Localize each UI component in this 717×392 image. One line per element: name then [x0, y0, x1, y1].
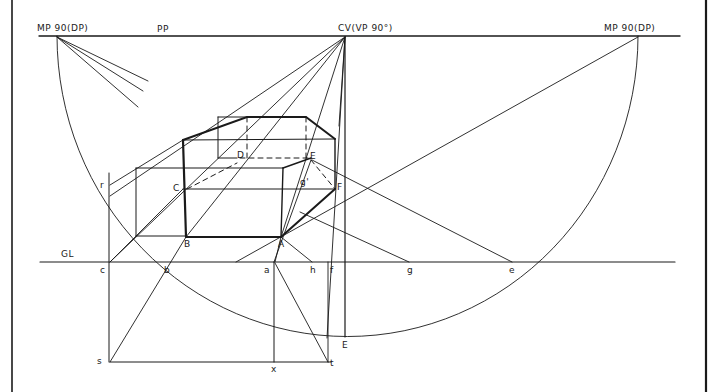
- label-point-c: c: [100, 266, 105, 275]
- label-point-A: A: [278, 240, 285, 249]
- line-g-prime-to-g: [300, 212, 409, 262]
- label-point-t: t: [330, 359, 334, 368]
- mp-ray-1: [57, 37, 148, 81]
- mp-ray-2: [57, 37, 143, 91]
- cv-ray-c: [110, 37, 345, 262]
- label-mp-left: MP 90(DP): [37, 24, 88, 33]
- label-point-s: s: [97, 357, 102, 366]
- label-point-a: a: [264, 266, 270, 275]
- label-point-g-prime: g': [300, 178, 309, 187]
- line-c-to-C: [110, 189, 183, 262]
- label-point-h: h: [310, 266, 316, 275]
- label-ground-line: GL: [61, 250, 74, 259]
- label-point-r: r: [100, 181, 104, 190]
- label-point-g: g: [407, 266, 413, 275]
- edge-front-top-to-E: [283, 158, 311, 168]
- line-s-to-b: [110, 237, 186, 362]
- mp-right-ray: [236, 37, 638, 262]
- edge-A-vertical: [281, 168, 283, 237]
- label-point-E: E: [310, 152, 316, 161]
- mp-ray-3: [57, 37, 138, 107]
- hidden-C-D: [187, 163, 237, 189]
- line-E-to-e: [312, 160, 512, 262]
- prism-top-outline: [183, 117, 335, 140]
- cv-ray-a: [281, 37, 345, 237]
- label-point-e: e: [509, 266, 515, 275]
- line-A-to-h: [281, 237, 312, 262]
- label-mp-right: MP 90(DP): [604, 24, 655, 33]
- label-point-C: C: [173, 184, 180, 193]
- hidden-E-F: [311, 160, 335, 189]
- label-point-f: f: [330, 266, 334, 275]
- measuring-arc: [57, 36, 638, 337]
- label-point-F: F: [337, 183, 343, 192]
- label-picture-plane: PP: [157, 25, 169, 34]
- label-point-D: D: [237, 151, 244, 160]
- label-point-B: B: [184, 240, 191, 249]
- label-point-b: b: [164, 266, 170, 275]
- label-point-E-low: E: [342, 341, 348, 350]
- cv-ray-e: [339, 37, 345, 126]
- line-r-to-top: [110, 140, 183, 185]
- perspective-drawing: [0, 0, 717, 392]
- label-point-x: x: [271, 365, 277, 374]
- line-a-to-t: [275, 263, 328, 362]
- label-center-of-vision: CV(VP 90°): [338, 24, 393, 33]
- cv-ray-b: [186, 37, 345, 237]
